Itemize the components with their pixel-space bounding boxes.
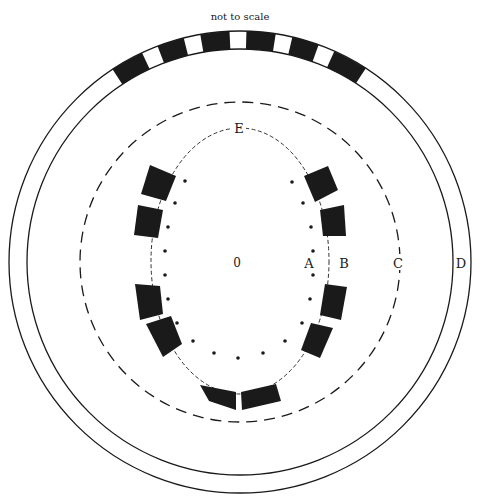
sarsen-block — [200, 31, 230, 52]
sarsen-block — [288, 37, 318, 62]
bluestone-dot — [290, 180, 294, 184]
trilithon-block — [241, 384, 281, 410]
label-center-0: 0 — [233, 256, 241, 270]
bluestone-dot — [283, 339, 287, 343]
trilithon-block — [141, 165, 176, 201]
bluestone-dot — [173, 201, 177, 205]
bluestone-dot — [301, 201, 305, 205]
bluestone-dot — [311, 249, 315, 253]
bluestone-dot — [300, 321, 304, 325]
bluestone-dot — [166, 297, 170, 301]
bluestone-dot — [311, 273, 315, 277]
label-A: A — [303, 256, 314, 271]
label-E: E — [234, 121, 244, 136]
trilithon-block — [304, 166, 338, 202]
sarsen-block — [246, 31, 276, 51]
sarsen-block — [327, 51, 366, 83]
bluestone-dot — [163, 249, 167, 253]
bluestone-dot — [183, 179, 187, 183]
label-D: D — [456, 256, 466, 271]
label-C: C — [393, 256, 403, 271]
sarsen-circle-segments — [113, 31, 366, 84]
trilithon-block — [320, 205, 346, 236]
bluestone-dot — [163, 273, 167, 277]
trilithon-block — [301, 323, 333, 358]
bluestone-dot — [236, 356, 240, 360]
stonehenge-plan-diagram: not to scale E 0 A B C D — [0, 0, 486, 501]
trilithon-block — [134, 205, 163, 238]
bluestone-dot — [261, 351, 265, 355]
trilithon-block — [135, 284, 163, 320]
sarsen-block — [158, 38, 189, 63]
bluestone-dot — [175, 321, 179, 325]
trilithon-block — [320, 284, 347, 320]
label-B: B — [339, 256, 349, 271]
bluestone-dot — [212, 351, 216, 355]
bluestone-dot — [191, 339, 195, 343]
bluestone-dot — [309, 225, 313, 229]
trilithon-blocks — [134, 165, 347, 410]
trilithon-block — [200, 385, 236, 410]
bluestone-dot — [308, 297, 312, 301]
not-to-scale-caption: not to scale — [211, 11, 270, 22]
bluestone-dot — [166, 225, 170, 229]
